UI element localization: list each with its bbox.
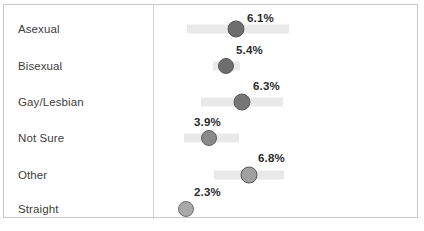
chart-frame: Asexual Bisexual Gay/Lesbian Not Sure Ot… <box>3 4 418 218</box>
data-point-straight[interactable] <box>178 201 194 217</box>
data-point-other[interactable] <box>241 167 258 184</box>
value-label-not-sure: 3.9% <box>194 116 221 128</box>
plot-area: 6.1% 5.4% 6.3% 3.9% 6.8% 2.3% <box>4 5 419 219</box>
value-label-bisexual: 5.4% <box>236 44 263 56</box>
value-label-asexual: 6.1% <box>247 12 274 24</box>
value-label-straight: 2.3% <box>194 186 221 198</box>
value-label-other: 6.8% <box>258 152 285 164</box>
data-point-asexual[interactable] <box>228 21 245 38</box>
value-label-gay-lesbian: 6.3% <box>253 80 280 92</box>
data-point-bisexual[interactable] <box>218 58 234 74</box>
data-point-gay-lesbian[interactable] <box>234 94 251 111</box>
data-point-not-sure[interactable] <box>201 130 217 146</box>
